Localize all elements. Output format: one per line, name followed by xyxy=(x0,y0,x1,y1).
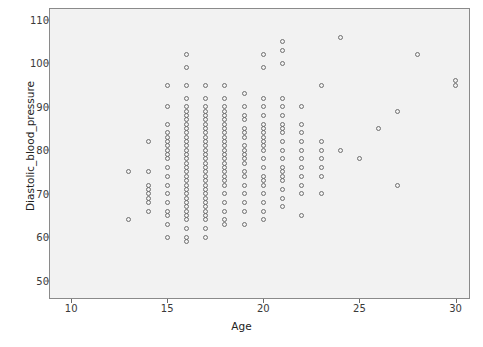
data-point xyxy=(376,126,381,131)
x-axis-label: Age xyxy=(0,320,483,332)
data-point xyxy=(165,213,170,218)
data-point xyxy=(126,217,131,222)
data-point xyxy=(146,200,151,205)
data-point xyxy=(280,196,285,201)
y-tick-label: 50 xyxy=(15,275,49,286)
data-point xyxy=(184,65,189,70)
y-tick-label: 110 xyxy=(15,14,49,25)
data-point xyxy=(395,183,400,188)
data-point xyxy=(319,191,324,196)
data-point xyxy=(280,148,285,153)
y-tick-mark xyxy=(45,63,49,64)
y-tick-label: 60 xyxy=(15,232,49,243)
data-point xyxy=(261,183,266,188)
data-point xyxy=(261,191,266,196)
data-point xyxy=(319,165,324,170)
data-point xyxy=(261,165,266,170)
data-point xyxy=(203,235,208,240)
data-point xyxy=(280,156,285,161)
data-point xyxy=(261,96,266,101)
data-point xyxy=(280,48,285,53)
data-point xyxy=(299,174,304,179)
data-point xyxy=(280,130,285,135)
data-point xyxy=(165,165,170,170)
data-point xyxy=(165,200,170,205)
data-point xyxy=(242,135,247,140)
y-tick-mark xyxy=(45,193,49,194)
data-point xyxy=(299,122,304,127)
data-point xyxy=(261,104,266,109)
data-point xyxy=(242,183,247,188)
data-point xyxy=(338,35,343,40)
data-point xyxy=(319,156,324,161)
x-tick-label: 10 xyxy=(51,303,91,314)
data-point xyxy=(280,104,285,109)
x-tick-mark xyxy=(359,299,360,303)
data-point xyxy=(299,104,304,109)
data-point xyxy=(242,209,247,214)
data-point xyxy=(203,226,208,231)
data-point xyxy=(126,169,131,174)
data-point xyxy=(184,217,189,222)
data-point xyxy=(261,148,266,153)
data-point xyxy=(299,165,304,170)
data-point xyxy=(203,96,208,101)
y-tick-mark xyxy=(45,150,49,151)
data-point xyxy=(299,156,304,161)
data-point xyxy=(242,161,247,166)
data-point xyxy=(242,91,247,96)
data-point xyxy=(165,156,170,161)
data-point xyxy=(165,104,170,109)
data-point xyxy=(222,209,227,214)
x-tick-mark xyxy=(167,299,168,303)
data-point xyxy=(242,174,247,179)
data-point xyxy=(357,156,362,161)
x-tick-mark xyxy=(71,299,72,303)
data-point xyxy=(280,178,285,183)
data-point xyxy=(242,191,247,196)
x-tick-mark xyxy=(456,299,457,303)
data-point xyxy=(242,222,247,227)
data-point xyxy=(146,139,151,144)
data-point xyxy=(165,235,170,240)
data-point xyxy=(261,65,266,70)
data-point xyxy=(299,139,304,144)
data-point xyxy=(280,39,285,44)
data-point xyxy=(165,83,170,88)
data-point xyxy=(299,148,304,153)
data-point xyxy=(280,96,285,101)
data-point xyxy=(222,200,227,205)
data-point xyxy=(165,222,170,227)
scatter-plot-figure: 5060708090100110 Age Diastolic_blood_pre… xyxy=(0,0,483,347)
y-tick-mark xyxy=(45,106,49,107)
data-point xyxy=(165,174,170,179)
data-point xyxy=(184,96,189,101)
data-point xyxy=(299,183,304,188)
data-point xyxy=(165,183,170,188)
data-point xyxy=(242,104,247,109)
data-point xyxy=(280,113,285,118)
data-point xyxy=(165,191,170,196)
data-point xyxy=(184,239,189,244)
data-point xyxy=(280,204,285,209)
data-point xyxy=(299,130,304,135)
data-point xyxy=(184,83,189,88)
data-point xyxy=(203,217,208,222)
data-point xyxy=(319,174,324,179)
data-point xyxy=(222,96,227,101)
clipped-header-text xyxy=(0,0,483,7)
data-point xyxy=(453,83,458,88)
data-point xyxy=(395,109,400,114)
data-point xyxy=(261,209,266,214)
plot-area xyxy=(49,8,470,299)
x-tick-label: 20 xyxy=(243,303,283,314)
data-point xyxy=(261,113,266,118)
y-tick-mark xyxy=(45,237,49,238)
data-point xyxy=(184,52,189,57)
data-point xyxy=(319,139,324,144)
y-axis-label: Diastolic_blood_pressure xyxy=(24,61,36,231)
data-point xyxy=(261,156,266,161)
data-point xyxy=(261,52,266,57)
data-point xyxy=(261,200,266,205)
x-tick-label: 15 xyxy=(147,303,187,314)
